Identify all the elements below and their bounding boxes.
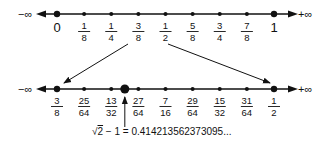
bottom-tick-denominator: 64 xyxy=(133,107,144,118)
top-plus-infinity-label: +∞ xyxy=(298,8,312,20)
bottom-tick-denominator: 2 xyxy=(271,107,276,118)
bottom-tick-numerator: 1 xyxy=(271,95,276,106)
top-tick-point xyxy=(164,12,168,16)
top-minus-infinity-label: −∞ xyxy=(18,8,32,20)
bottom-tick-numerator: 31 xyxy=(242,95,253,106)
top-tick-point xyxy=(271,11,277,17)
top-tick-denominator: 8 xyxy=(81,32,86,43)
bottom-tick-denominator: 32 xyxy=(106,107,117,118)
bottom-tick-denominator: 16 xyxy=(160,107,171,118)
bottom-tick-point xyxy=(136,87,140,91)
bottom-tick-numerator: 15 xyxy=(214,95,225,106)
bottom-tick-numerator: 25 xyxy=(79,95,90,106)
bottom-tick-point xyxy=(245,87,249,91)
top-tick-denominator: 8 xyxy=(190,32,195,43)
bottom-tick-point xyxy=(191,87,195,91)
number-line-diagram: −∞ +∞ 0181438125834781 −∞ +∞ 38256413322… xyxy=(0,0,322,143)
bottom-tick-denominator: 32 xyxy=(214,107,225,118)
top-tick-point xyxy=(82,12,86,16)
bottom-tick-point xyxy=(218,87,222,91)
top-tick-denominator: 8 xyxy=(244,32,249,43)
top-tick-denominator: 2 xyxy=(163,32,168,43)
bottom-left-arrowhead xyxy=(36,86,46,93)
top-left-arrowhead xyxy=(36,11,46,18)
top-tick-numerator: 1 xyxy=(81,20,86,31)
bottom-minus-infinity-label: −∞ xyxy=(18,83,32,95)
top-tick-numerator: 1 xyxy=(109,20,114,31)
sqrt2-value-text: − 1 = 0.414213562373095... xyxy=(103,126,231,137)
top-tick-point xyxy=(109,12,113,16)
top-tick-numerator: 1 xyxy=(163,20,168,31)
bottom-tick-numerator: 13 xyxy=(106,95,117,106)
top-tick-point xyxy=(191,12,195,16)
bottom-plus-infinity-label: +∞ xyxy=(298,83,312,95)
top-tick-numerator: 5 xyxy=(190,20,195,31)
bottom-tick-numerator: 7 xyxy=(163,95,168,106)
top-number-line: −∞ +∞ 0181438125834781 xyxy=(18,8,312,43)
top-tick-label: 0 xyxy=(53,20,60,35)
top-tick-point xyxy=(136,12,140,16)
sqrt2-minus-1-point xyxy=(120,85,129,94)
bottom-tick-numerator: 3 xyxy=(54,95,59,106)
bottom-tick-denominator: 64 xyxy=(187,107,198,118)
zoom-arrow-right xyxy=(168,44,270,83)
top-tick-denominator: 4 xyxy=(217,32,222,43)
bottom-tick-denominator: 64 xyxy=(242,107,253,118)
bottom-tick-denominator: 64 xyxy=(79,107,90,118)
bottom-right-arrowhead xyxy=(288,86,298,93)
top-tick-point xyxy=(245,12,249,16)
top-tick-numerator: 3 xyxy=(217,20,222,31)
top-tick-label: 1 xyxy=(270,20,277,35)
sqrt2-annotation: √2 − 1 = 0.414213562373095... xyxy=(92,126,232,137)
top-tick-denominator: 4 xyxy=(109,32,114,43)
bottom-tick-numerator: 29 xyxy=(187,95,198,106)
bottom-tick-denominator: 8 xyxy=(54,107,59,118)
top-tick-numerator: 3 xyxy=(136,20,141,31)
bottom-tick-point xyxy=(164,87,168,91)
bottom-tick-numerator: 27 xyxy=(133,95,144,106)
bottom-tick-point xyxy=(271,86,277,92)
zoom-arrow-left xyxy=(64,44,128,83)
bottom-tick-point xyxy=(82,87,86,91)
top-tick-point xyxy=(54,11,60,17)
top-right-arrowhead xyxy=(288,11,298,18)
bottom-tick-point xyxy=(54,86,60,92)
bottom-tick-point xyxy=(109,87,113,91)
top-tick-numerator: 7 xyxy=(244,20,249,31)
top-tick-point xyxy=(218,12,222,16)
top-tick-denominator: 8 xyxy=(136,32,141,43)
bottom-number-line: −∞ +∞ 3825641332276471629641532316412 xyxy=(18,83,312,118)
